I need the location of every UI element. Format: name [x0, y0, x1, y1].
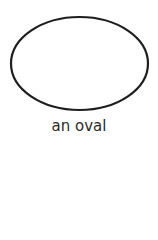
shape-caption: an oval — [0, 117, 158, 135]
